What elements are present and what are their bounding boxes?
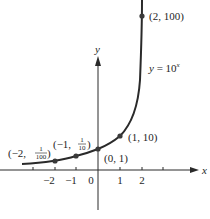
point-label: (1, 10) bbox=[128, 131, 158, 144]
point-label-neg2: (−2, 1 100 ) bbox=[8, 145, 51, 161]
svg-text:1: 1 bbox=[39, 145, 43, 153]
svg-text:y = 10x: y = 10x bbox=[148, 61, 181, 74]
function-label: y = 10x bbox=[148, 61, 181, 74]
exponential-graph: x y −2 −1 0 1 2 (2, 100) (1, 10) (0, 1) … bbox=[0, 0, 210, 219]
data-point bbox=[139, 13, 144, 18]
svg-text:(−1,: (−1, bbox=[53, 138, 71, 151]
svg-text:): ) bbox=[47, 147, 51, 160]
point-label: (2, 100) bbox=[149, 10, 184, 23]
svg-text:10: 10 bbox=[79, 144, 87, 152]
point-label-neg1: (−1, 1 10 ) bbox=[53, 136, 91, 152]
tick-label: −2 bbox=[43, 174, 55, 186]
point-label: (0, 1) bbox=[104, 152, 128, 165]
tick-label: 0 bbox=[88, 174, 94, 186]
tick-label: −1 bbox=[65, 174, 77, 186]
svg-text:100: 100 bbox=[36, 153, 47, 161]
tick-label: 2 bbox=[139, 174, 145, 186]
data-point bbox=[117, 133, 122, 138]
svg-text:1: 1 bbox=[80, 136, 84, 144]
svg-text:): ) bbox=[87, 138, 91, 151]
y-axis-label: y bbox=[94, 43, 100, 55]
data-point bbox=[95, 146, 100, 151]
y-axis-arrow-icon bbox=[95, 56, 101, 66]
tick-label: 1 bbox=[117, 174, 123, 186]
svg-text:(−2,: (−2, bbox=[8, 147, 26, 160]
data-point bbox=[52, 158, 57, 163]
x-axis-arrow-icon bbox=[190, 167, 199, 173]
x-axis-label: x bbox=[201, 164, 207, 176]
data-point bbox=[73, 153, 78, 158]
